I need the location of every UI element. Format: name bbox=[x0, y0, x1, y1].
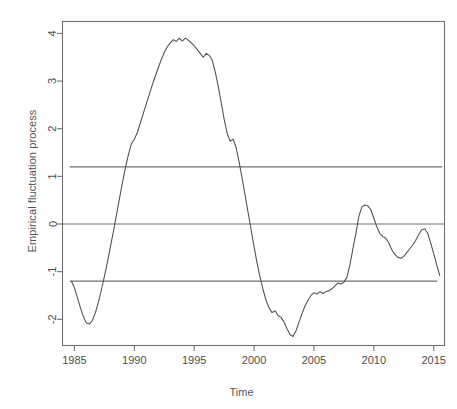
plot-background bbox=[0, 0, 457, 409]
y-axis-tick-label: 1 bbox=[47, 173, 59, 179]
x-axis-tick-label: 1995 bbox=[182, 354, 206, 366]
chart-figure: Empirical fluctuation process -2-1012341… bbox=[0, 0, 457, 409]
y-axis-tick-label: -2 bbox=[47, 314, 59, 324]
y-axis-title: Empirical fluctuation process bbox=[26, 71, 38, 291]
y-axis-tick-label: 3 bbox=[47, 78, 59, 84]
y-axis-tick-label: 0 bbox=[47, 221, 59, 227]
plot-area: -2-1012341985199019952000200520102015 bbox=[0, 0, 457, 409]
x-axis-tick-label: 1990 bbox=[122, 354, 146, 366]
x-axis-tick-label: 1985 bbox=[62, 354, 86, 366]
x-axis-tick-label: 2005 bbox=[302, 354, 326, 366]
y-axis-tick-label: 4 bbox=[47, 30, 59, 36]
y-axis-tick-label: 2 bbox=[47, 126, 59, 132]
x-axis-tick-label: 2015 bbox=[421, 354, 445, 366]
x-axis-tick-label: 2010 bbox=[362, 354, 386, 366]
x-axis-title-wrap: Time bbox=[0, 386, 457, 398]
y-axis-tick-label: -1 bbox=[47, 267, 59, 277]
x-axis-tick-label: 2000 bbox=[242, 354, 266, 366]
x-axis-title: Time bbox=[229, 386, 253, 398]
